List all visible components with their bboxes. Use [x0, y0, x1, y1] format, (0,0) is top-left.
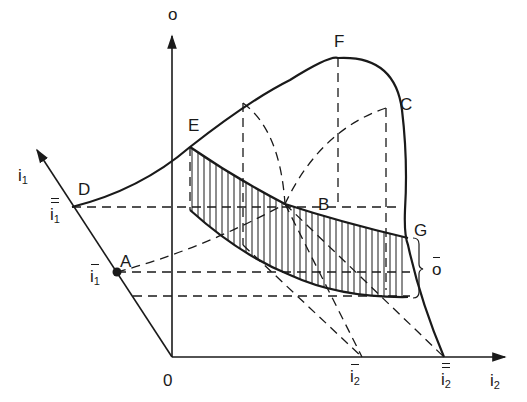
diagram-svg — [0, 0, 527, 402]
point-a-label: A — [120, 253, 131, 270]
construction-lines — [72, 58, 444, 357]
o-bar-label: o — [432, 261, 441, 278]
point-b-label: B — [318, 196, 329, 213]
i1-doublebar-label: i1 — [50, 206, 60, 225]
point-e-label: E — [188, 117, 199, 134]
point-d-label: D — [78, 181, 90, 198]
i2-doublebar-label: i2 — [441, 371, 451, 390]
point-c-label: C — [400, 96, 412, 113]
hatch-upper-edge — [190, 147, 408, 238]
point-g-label: G — [414, 222, 427, 239]
origin-label: 0 — [163, 372, 172, 389]
i1-axis-label: i1 — [18, 167, 28, 186]
hatch-lower-edge — [190, 210, 408, 297]
i1-bar-label: i1 — [90, 268, 100, 287]
i2-bar-label: i2 — [350, 368, 360, 387]
o-axis-label: o — [168, 6, 177, 23]
diagram-canvas: o i1 i2 0 A B C D E F G i1 i1 i2 i2 o — [0, 0, 527, 402]
hatched-region — [192, 140, 402, 300]
i1-axis — [37, 150, 172, 357]
point-f-label: F — [334, 33, 344, 50]
i2-axis-label: i2 — [490, 372, 500, 391]
